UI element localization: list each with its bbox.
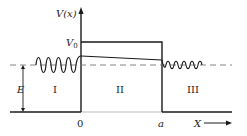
potential-barrier-diagram: V(x) V0 E I II III 0 a X	[0, 0, 247, 136]
diagram-canvas: V(x) V0 E I II III 0 a X	[0, 0, 247, 136]
y-axis-label: V(x)	[56, 8, 77, 19]
region-I-label: I	[53, 84, 57, 95]
transmitted-wavefunction	[162, 60, 202, 69]
energy-arrow-up-icon	[21, 65, 25, 69]
incident-wavefunction	[36, 56, 81, 73]
energy-label: E	[16, 84, 25, 95]
decaying-wavefunction	[81, 56, 162, 60]
region-II-label: II	[116, 84, 124, 95]
barrier-width-label: a	[158, 118, 164, 129]
region-III-label: III	[187, 84, 199, 95]
y-axis-arrow-icon	[79, 7, 84, 14]
potential-barrier	[81, 42, 162, 112]
origin-label: 0	[77, 118, 83, 129]
x-axis-arrow-icon	[226, 121, 232, 126]
barrier-height-label: V0	[66, 37, 78, 50]
x-axis-label: X	[193, 118, 202, 129]
